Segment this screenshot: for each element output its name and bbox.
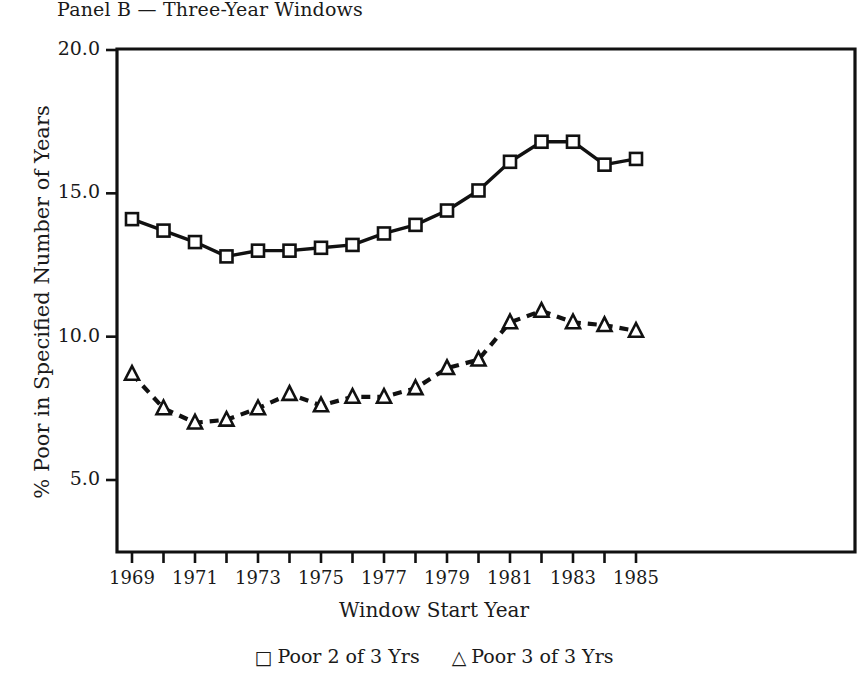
data-point-triangle <box>314 398 328 412</box>
data-point-square <box>158 225 170 237</box>
data-point-square <box>221 250 233 262</box>
data-point-triangle <box>566 315 580 329</box>
y-axis-tick-label: 10.0 <box>34 324 100 346</box>
legend-item-poor-3-of-3: △Poor 3 of 3 Yrs <box>452 645 614 668</box>
x-axis-label: Window Start Year <box>0 598 868 622</box>
data-point-square <box>189 236 201 248</box>
data-point-triangle <box>629 323 643 337</box>
x-axis-tick-label: 1973 <box>228 567 288 588</box>
data-point-square <box>441 205 453 217</box>
data-point-square <box>126 213 138 225</box>
data-point-square <box>410 219 422 231</box>
data-point-square <box>599 159 611 171</box>
data-point-square <box>284 245 296 257</box>
data-point-triangle <box>346 389 360 403</box>
data-point-square <box>315 242 327 254</box>
data-point-triangle <box>251 401 265 415</box>
data-point-triangle <box>503 315 517 329</box>
x-axis-tick-label: 1979 <box>417 567 477 588</box>
data-point-triangle <box>188 415 202 429</box>
data-point-triangle <box>125 366 139 380</box>
x-axis-tick-label: 1969 <box>102 567 162 588</box>
data-point-triangle <box>440 360 454 374</box>
data-point-triangle <box>535 303 549 317</box>
series-markers-2 <box>125 303 643 428</box>
data-point-square <box>567 136 579 148</box>
data-point-triangle <box>283 386 297 400</box>
data-point-square <box>252 245 264 257</box>
data-point-triangle <box>220 412 234 426</box>
data-point-square <box>630 153 642 165</box>
x-axis-tick-label: 1983 <box>543 567 603 588</box>
data-point-square <box>504 156 516 168</box>
chart-figure: Panel B — Three-Year Windows % Poor in S… <box>0 0 868 680</box>
x-axis-tick-label: 1981 <box>480 567 540 588</box>
data-point-square <box>536 136 548 148</box>
data-point-square <box>473 184 485 196</box>
data-point-triangle <box>598 317 612 331</box>
y-axis-tick-label: 20.0 <box>34 37 100 59</box>
data-point-square <box>347 239 359 251</box>
axis-frame <box>117 49 855 552</box>
legend-triangle-icon: △ <box>452 646 467 668</box>
legend-label-poor-2-of-3: Poor 2 of 3 Yrs <box>277 645 419 667</box>
legend-square-icon: □ <box>255 646 273 668</box>
x-axis-tick-label: 1985 <box>606 567 666 588</box>
data-point-square <box>378 227 390 239</box>
x-axis-tick-label: 1971 <box>165 567 225 588</box>
y-axis-tick-label: 15.0 <box>34 180 100 202</box>
series-markers-1 <box>126 136 642 263</box>
series-line-2 <box>132 311 636 423</box>
x-axis-tick-label: 1977 <box>354 567 414 588</box>
data-point-triangle <box>377 389 391 403</box>
y-axis-tick-label: 5.0 <box>34 467 100 489</box>
legend-item-poor-2-of-3: □Poor 2 of 3 Yrs <box>255 645 420 668</box>
chart-legend: □Poor 2 of 3 Yrs △Poor 3 of 3 Yrs <box>0 645 868 668</box>
x-axis-tick-label: 1975 <box>291 567 351 588</box>
legend-label-poor-3-of-3: Poor 3 of 3 Yrs <box>471 645 613 667</box>
data-point-triangle <box>409 380 423 394</box>
